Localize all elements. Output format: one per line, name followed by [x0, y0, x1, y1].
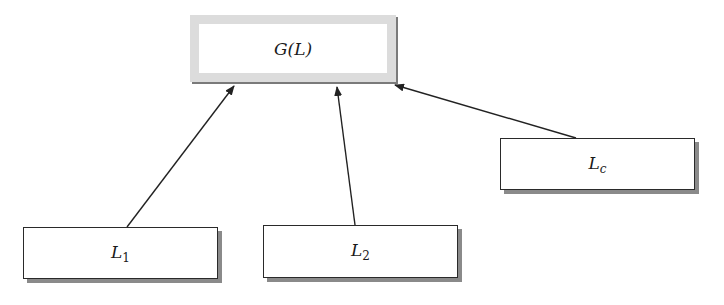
node-g-of-l: G(L): [190, 15, 396, 82]
edge-l1-to-g: [127, 86, 234, 227]
node-g-label: G(L): [274, 39, 312, 59]
node-l1-label: L1: [111, 242, 130, 265]
node-l1: L1: [23, 227, 218, 279]
node-lc: Lc: [500, 138, 695, 190]
node-l2-label: L2: [351, 240, 370, 263]
diagram-canvas: G(L) L1 L2 Lc: [0, 0, 724, 305]
edge-lc-to-g: [395, 85, 576, 138]
node-lc-label: Lc: [588, 153, 606, 176]
node-l2: L2: [263, 225, 458, 278]
edge-l2-to-g: [337, 87, 355, 225]
